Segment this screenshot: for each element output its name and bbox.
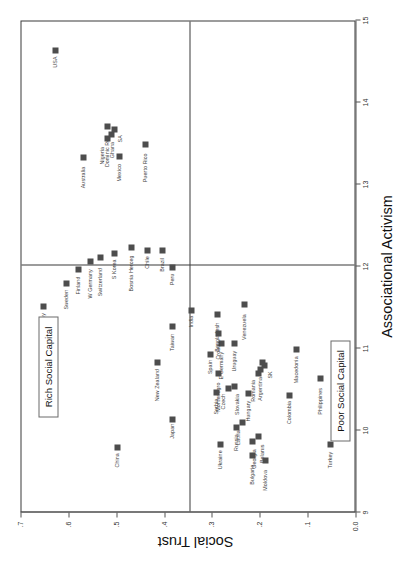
data-point: [169, 324, 175, 330]
data-point-label: Uruguay: [230, 350, 236, 371]
y-axis-title: Social Trust: [115, 533, 275, 549]
x-axis-tick-label: 14: [361, 98, 368, 106]
data-point-label: Sweden: [62, 289, 68, 309]
y-axis-tick-label: .1: [304, 521, 311, 543]
data-point-label: SA: [116, 135, 122, 142]
data-point: [144, 247, 150, 253]
data-point-label: Finland: [74, 276, 80, 294]
data-point: [87, 258, 93, 264]
data-point-label: Hungary: [244, 400, 250, 421]
y-axis-tick-label: .6: [64, 521, 71, 543]
data-point: [104, 123, 110, 129]
data-point: [40, 303, 46, 309]
x-axis-tick-label: 10: [361, 426, 368, 434]
y-axis-tick: [164, 512, 165, 517]
x-axis-tick: [355, 265, 360, 266]
data-point-label: Serbia: [212, 398, 218, 414]
data-point: [111, 126, 117, 132]
x-axis-title: Associational Activism: [378, 20, 394, 512]
data-point-label: China: [113, 453, 119, 467]
data-point: [217, 441, 223, 447]
data-point: [231, 340, 237, 346]
plot-area: ChinaJapanNew ZealandTaiwanIndiaNorwaySw…: [20, 20, 355, 512]
data-point: [154, 359, 160, 365]
x-axis-tick-label: 15: [361, 16, 368, 24]
data-point: [114, 444, 120, 450]
data-point-label: Argentina: [256, 377, 262, 401]
data-point-label: Australia: [79, 166, 85, 188]
y-axis-tick: [355, 512, 356, 517]
data-point-label: Croatia: [214, 341, 220, 359]
data-point: [249, 438, 255, 444]
data-point: [249, 452, 255, 458]
data-point: [215, 370, 221, 376]
data-point: [159, 247, 165, 253]
data-point-label: Colombia: [285, 400, 291, 423]
y-axis-tick: [20, 512, 21, 517]
data-point-label: Turkey: [326, 451, 332, 468]
data-point: [213, 389, 219, 395]
y-axis-tick: [116, 512, 117, 517]
data-point: [75, 266, 81, 272]
data-point: [215, 330, 221, 336]
x-axis-tick: [355, 183, 360, 184]
data-point-label: Philippines: [316, 387, 322, 414]
x-axis-tick: [355, 347, 360, 348]
quadrant-divider-vertical: [21, 264, 354, 265]
data-point-label: Brazil: [158, 257, 164, 271]
data-point-label: Spain: [206, 360, 212, 374]
data-point-label: India: [187, 315, 193, 327]
data-point: [317, 375, 323, 381]
data-point-label: Romania: [249, 379, 255, 401]
data-point: [63, 280, 69, 286]
data-point-label: S Korea: [110, 259, 116, 279]
y-axis-tick-label: .7: [17, 521, 24, 543]
x-axis-tick-label: 9: [361, 510, 368, 514]
data-point-label: Macedonia: [292, 356, 298, 383]
data-point-label: Mexico: [115, 164, 121, 181]
data-point: [169, 416, 175, 422]
y-axis-tick: [211, 512, 212, 517]
data-point-label: New Zealand: [153, 368, 159, 400]
data-point-label: Ukraine: [216, 450, 222, 469]
y-axis-tick: [68, 512, 69, 517]
plot-wrapper: ChinaJapanNew ZealandTaiwanIndiaNorwaySw…: [0, 0, 409, 575]
data-point-label: Peru: [168, 273, 174, 285]
data-point: [231, 383, 237, 389]
annotation-poor-social-capital: Poor Social Capital: [330, 340, 350, 442]
x-axis-tick: [355, 101, 360, 102]
annotation-rich-social-capital: Rich Social Capital: [38, 316, 58, 417]
data-point: [188, 307, 194, 313]
quadrant-divider-horizontal: [189, 21, 190, 511]
data-point: [293, 346, 299, 352]
data-point-label: USA: [51, 56, 57, 67]
data-point-label: Japan: [168, 423, 174, 438]
x-axis-tick: [355, 429, 360, 430]
y-axis-tick: [259, 512, 260, 517]
data-point: [214, 311, 220, 317]
data-point: [142, 141, 148, 147]
data-point-label: Taiwan: [168, 333, 174, 350]
data-point: [259, 359, 265, 365]
data-point-label: SK: [266, 371, 272, 378]
data-point: [116, 153, 122, 159]
data-point-label: Slovakia: [233, 394, 239, 415]
x-axis-tick: [355, 19, 360, 20]
data-point: [286, 392, 292, 398]
data-point-label: Ghana: [108, 141, 114, 157]
data-point-label: Czech: [219, 393, 225, 409]
x-axis-tick-label: 12: [361, 262, 368, 270]
data-point-label: Bulgaria: [248, 464, 254, 484]
data-point: [52, 47, 58, 53]
scatter-chart-figure: ChinaJapanNew ZealandTaiwanIndiaNorwaySw…: [0, 0, 409, 575]
data-point-label: W Germany: [86, 269, 92, 298]
data-point-label: Latvia: [234, 430, 240, 445]
data-point: [128, 244, 134, 250]
data-point: [207, 351, 213, 357]
data-point: [262, 457, 268, 463]
data-point: [255, 433, 261, 439]
data-point: [111, 250, 117, 256]
data-point: [241, 301, 247, 307]
data-point: [80, 154, 86, 160]
data-point-label: Puerto Rico: [141, 153, 147, 182]
